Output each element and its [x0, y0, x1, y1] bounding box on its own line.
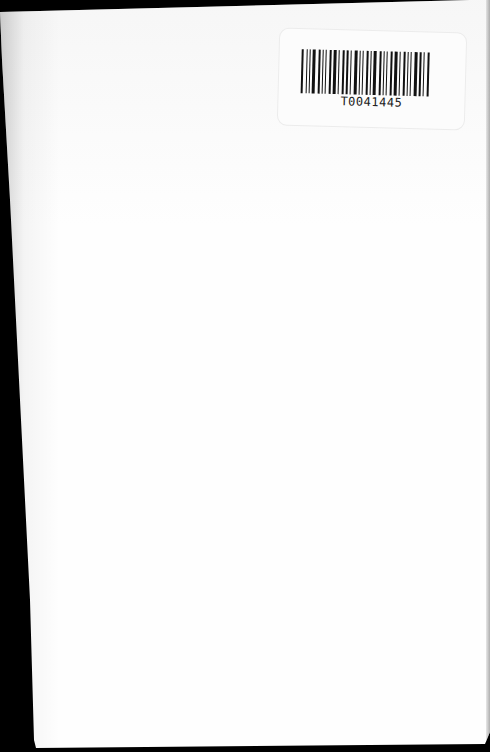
barcode-bar	[383, 51, 385, 95]
barcode-bar	[370, 51, 372, 95]
barcode-bar	[329, 50, 332, 94]
barcode-bar	[325, 50, 327, 94]
barcode-bar	[362, 51, 364, 95]
barcode-bar	[359, 51, 361, 95]
barcode-bar	[394, 52, 398, 96]
barcode-bar	[407, 52, 409, 96]
barcode-bar	[366, 51, 369, 95]
barcode-bar	[373, 51, 377, 95]
barcode-bar	[386, 51, 388, 95]
barcode-bar	[410, 52, 412, 96]
scanned-page: T0041445	[0, 0, 490, 752]
barcode-bar	[312, 49, 316, 93]
barcode-bar	[318, 50, 321, 94]
barcode-bar	[346, 50, 349, 94]
barcode-bar	[399, 52, 401, 96]
barcode-bar	[419, 52, 422, 96]
page-right-edge	[486, 0, 490, 752]
barcode-bar	[403, 52, 406, 96]
barcode-label: T0041445	[277, 28, 468, 131]
barcode-bar	[322, 50, 324, 94]
barcode-bar	[301, 49, 304, 93]
barcode-icon	[301, 49, 444, 97]
barcode-bar	[306, 49, 308, 93]
barcode-bar	[427, 52, 430, 96]
barcode-bar	[354, 51, 358, 95]
barcode-bar	[414, 52, 418, 96]
barcode-bar	[379, 51, 382, 95]
barcode-bar	[423, 52, 425, 96]
barcode-bar	[333, 50, 337, 94]
barcode-bar	[350, 50, 352, 94]
barcode-bar	[342, 50, 345, 94]
barcode-bar	[338, 50, 340, 94]
barcode-bar	[309, 49, 311, 93]
barcode-bar	[390, 51, 393, 95]
